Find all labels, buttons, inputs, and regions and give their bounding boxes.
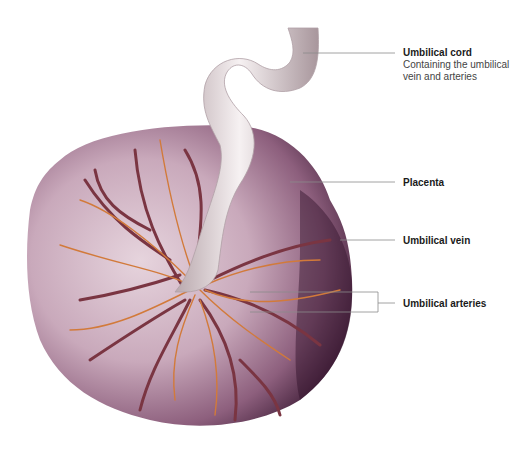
label-umbilical-arteries: Umbilical arteries bbox=[403, 298, 486, 310]
label-description: Containing the umbilical bbox=[403, 59, 509, 71]
label-umbilical-vein: Umbilical vein bbox=[403, 235, 470, 247]
label-umbilical-cord: Umbilical cord Containing the umbilical … bbox=[403, 47, 509, 83]
label-title: Umbilical cord bbox=[403, 47, 509, 59]
label-description: vein and arteries bbox=[403, 71, 509, 83]
label-placenta: Placenta bbox=[403, 177, 444, 189]
label-title: Placenta bbox=[403, 177, 444, 189]
placenta-shadow bbox=[296, 190, 353, 400]
label-title: Umbilical arteries bbox=[403, 298, 486, 310]
label-title: Umbilical vein bbox=[403, 235, 470, 247]
